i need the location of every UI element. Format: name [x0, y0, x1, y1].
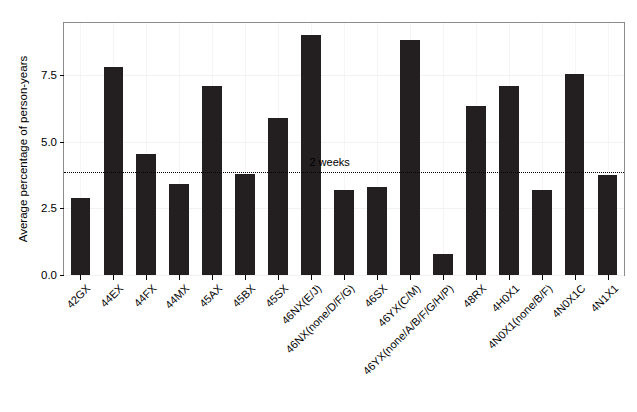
- x-axis-tick-label: 44FX: [132, 282, 159, 309]
- bar[interactable]: [433, 254, 453, 275]
- x-axis-tick: [212, 275, 213, 280]
- bar[interactable]: [169, 184, 189, 275]
- x-axis-tick: [344, 275, 345, 280]
- y-axis-tick-label: 7.5: [41, 69, 57, 81]
- bar[interactable]: [499, 86, 519, 275]
- bar[interactable]: [202, 86, 222, 275]
- bar[interactable]: [565, 74, 585, 275]
- x-axis-tick: [542, 275, 543, 280]
- x-axis-tick: [113, 275, 114, 280]
- x-axis-tick: [245, 275, 246, 280]
- y-axis-tick: [60, 275, 64, 276]
- x-axis-tick: [377, 275, 378, 280]
- y-axis-tick: [60, 208, 64, 209]
- bar[interactable]: [532, 190, 552, 275]
- x-axis-tick-label: 4N1X1: [588, 282, 620, 314]
- y-axis-tick-label: 2.5: [41, 202, 57, 214]
- y-axis-tick: [60, 142, 64, 143]
- y-axis-tick-label: 5.0: [41, 136, 57, 148]
- gridline-horizontal: [64, 75, 624, 76]
- y-axis-tick: [60, 75, 64, 76]
- x-axis-tick: [476, 275, 477, 280]
- x-axis-tick: [80, 275, 81, 280]
- bar[interactable]: [334, 190, 354, 275]
- bar[interactable]: [235, 174, 255, 275]
- x-axis-tick-label: 42GX: [65, 282, 93, 310]
- x-axis-tick-label: 45BX: [230, 282, 258, 310]
- y-axis-title: Average percentage of person-years: [14, 22, 32, 276]
- x-axis-tick: [311, 275, 312, 280]
- y-axis-tick-label: 0.0: [41, 269, 57, 281]
- plot-area: 0.02.55.07.52 weeks: [63, 22, 625, 276]
- bar[interactable]: [71, 198, 91, 275]
- x-axis-tick-label: 45SX: [263, 282, 291, 310]
- x-axis-tick: [608, 275, 609, 280]
- x-axis-tick-label: 44EX: [98, 282, 126, 310]
- bar[interactable]: [367, 187, 387, 275]
- x-axis-tick: [146, 275, 147, 280]
- x-axis-tick-label: 45AX: [197, 282, 225, 310]
- x-axis-tick-label: 4N0X1C: [549, 282, 587, 320]
- x-axis-tick: [179, 275, 180, 280]
- x-axis-tick: [575, 275, 576, 280]
- bar-chart-figure: Average percentage of person-years 0.02.…: [0, 0, 637, 412]
- x-axis-tick: [410, 275, 411, 280]
- x-axis-tick-label: 48RX: [460, 282, 488, 310]
- gridline-horizontal: [64, 142, 624, 143]
- x-axis-tick: [509, 275, 510, 280]
- plot-inner: 0.02.55.07.52 weeks: [64, 23, 624, 275]
- x-axis-tick-label: 46SX: [362, 282, 390, 310]
- gridline-vertical: [443, 23, 444, 275]
- two-weeks-reference-label: 2 weeks: [309, 156, 349, 168]
- bar[interactable]: [466, 106, 486, 275]
- bar[interactable]: [268, 118, 288, 275]
- x-axis-tick: [443, 275, 444, 280]
- x-axis-tick-label: 44MX: [163, 282, 192, 311]
- x-axis-tick: [278, 275, 279, 280]
- bar[interactable]: [400, 40, 420, 275]
- x-axis-tick-label: 4H0X1: [489, 282, 521, 314]
- two-weeks-reference-line: [64, 172, 624, 173]
- bar[interactable]: [598, 175, 618, 275]
